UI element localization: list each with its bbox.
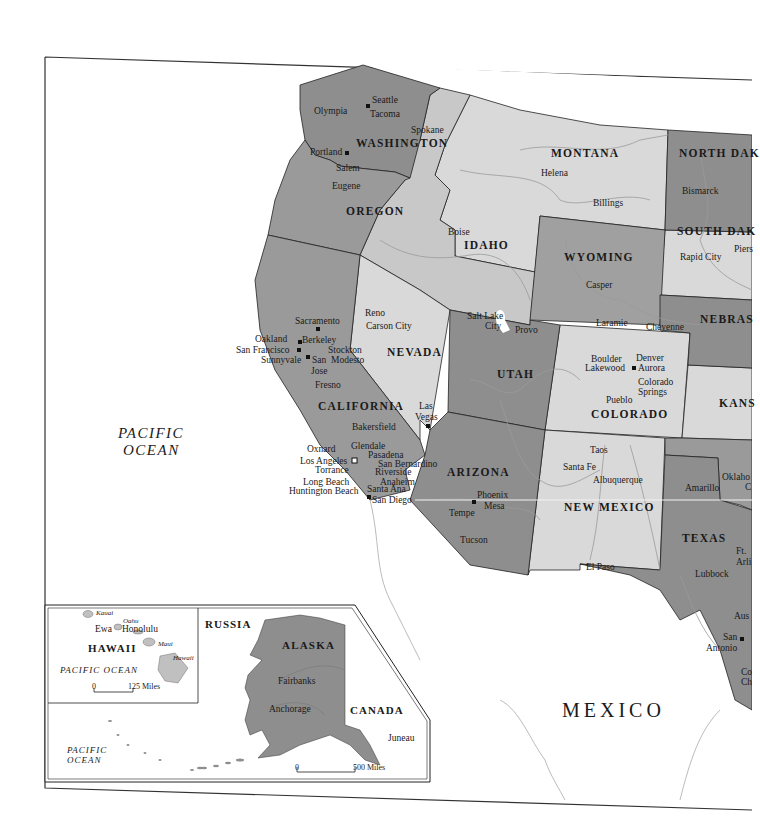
city-reno: Reno — [365, 309, 385, 319]
city-modesto: Modesto — [331, 356, 364, 366]
city-juneau: Juneau — [388, 734, 414, 744]
state-label-kansas: KANS — [719, 398, 756, 410]
city-cheyenne: Cheyenne — [646, 323, 684, 333]
ocean-label-alaska-2: OCEAN — [67, 756, 102, 765]
state-label-arizona: ARIZONA — [447, 467, 510, 479]
city-anchorage: Anchorage — [269, 705, 311, 715]
city-seattle: Seattle — [372, 96, 398, 106]
country-label-russia: RUSSIA — [205, 619, 251, 630]
city-oxnard: Oxnard — [307, 445, 336, 455]
city-lubbock: Lubbock — [695, 570, 729, 580]
city-torrance: Torrance — [315, 466, 349, 476]
city-fort-worth-2: Arli — [736, 558, 751, 568]
city-amarillo: Amarillo — [685, 484, 719, 494]
state-label-california: CALIFORNIA — [318, 401, 404, 413]
city-corpus-christi-2: Ch — [741, 678, 752, 688]
city-tempe: Tempe — [449, 509, 475, 519]
city-bismarck: Bismarck — [682, 187, 718, 197]
city-spokane: Spokane — [411, 126, 444, 136]
state-label-idaho: IDAHO — [464, 240, 509, 252]
city-mesa: Mesa — [484, 502, 505, 512]
state-label-oregon: OREGON — [346, 206, 404, 218]
city-san-jose-2: Jose — [311, 367, 327, 377]
country-label-mexico: MEXICO — [562, 700, 665, 720]
ocean-label-pacific-2: OCEAN — [123, 443, 180, 458]
state-south-dakota — [660, 230, 752, 300]
ocean-label-hawaii: PACIFIC OCEAN — [60, 666, 138, 675]
island-label-maui: Maui — [158, 641, 173, 648]
state-label-wyoming: WYOMING — [564, 252, 634, 264]
island-label-kauai: Kauai — [96, 610, 113, 617]
city-lakewood: Lakewood — [585, 364, 625, 374]
city-fort-worth-1: Ft. — [736, 547, 746, 557]
city-el-paso: El Paso — [586, 563, 615, 573]
island-maui — [143, 638, 155, 646]
city-oakland: Oakland — [255, 335, 287, 345]
city-taos: Taos — [590, 446, 608, 456]
ocean-label-pacific-1: PACIFIC — [118, 426, 184, 441]
state-wyoming — [530, 216, 665, 325]
island-label-hawaii: Hawaii — [173, 655, 194, 662]
city-huntington-beach: Huntington Beach — [289, 487, 358, 497]
state-label-nebraska: NEBRAS — [700, 314, 754, 326]
city-eugene: Eugene — [332, 182, 361, 192]
island-oahu — [114, 624, 122, 630]
city-santa-ana: Santa Ana — [367, 485, 406, 495]
alaska-scale-zero: 0 — [295, 764, 299, 772]
state-label-new-mexico: NEW MEXICO — [564, 502, 655, 514]
state-label-south-dakota: SOUTH DAK — [677, 226, 757, 238]
city-santa-fe: Santa Fe — [563, 463, 596, 473]
hawaii-scale-distance: 125 Miles — [128, 683, 160, 691]
state-label-north-dakota: NORTH DAK — [679, 148, 760, 160]
hawaii-scale-zero: 0 — [92, 683, 96, 691]
alaska-scale-distance: 500 Miles — [353, 764, 385, 772]
island-kauai — [83, 611, 93, 618]
state-label-colorado: COLORADO — [591, 409, 668, 421]
city-salt-lake-city-2: City — [485, 322, 501, 332]
city-san-diego: San Diego — [372, 496, 412, 506]
city-fairbanks: Fairbanks — [278, 677, 315, 687]
city-provo: Provo — [515, 326, 538, 336]
city-tucson: Tucson — [460, 536, 488, 546]
state-label-montana: MONTANA — [551, 148, 619, 160]
city-billings: Billings — [593, 199, 623, 209]
city-san-antonio-1: San — [723, 633, 737, 643]
city-albuquerque: Albuquerque — [593, 476, 643, 486]
city-casper: Casper — [586, 281, 612, 291]
city-sacramento: Sacramento — [295, 317, 340, 327]
city-helena: Helena — [541, 169, 568, 179]
city-sunnyvale: Sunnyvale — [261, 356, 301, 366]
city-honolulu: Honolulu — [122, 625, 158, 635]
city-bakersfield: Bakersfield — [352, 423, 396, 433]
city-aurora: Aurora — [638, 364, 665, 374]
city-austin: Aus — [734, 612, 749, 622]
city-las-vegas-2: Vegas — [415, 413, 438, 423]
city-colorado-springs-2: Springs — [638, 388, 667, 398]
city-pierre: Piers — [734, 245, 753, 255]
city-portland: Portland — [310, 148, 342, 158]
city-oklahoma-city: C — [745, 483, 751, 493]
city-boise: Boise — [448, 228, 470, 238]
city-san-antonio-2: Antonio — [706, 644, 737, 654]
state-label-utah: UTAH — [497, 369, 534, 381]
city-salem: Salem — [336, 164, 360, 174]
state-north-dakota — [665, 130, 752, 232]
city-las-vegas-1: Las — [419, 402, 433, 412]
city-olympia: Olympia — [314, 107, 347, 117]
city-ewa: Ewa — [95, 625, 112, 635]
city-pueblo: Pueblo — [606, 396, 632, 406]
state-label-texas: TEXAS — [682, 533, 726, 545]
state-label-washington: WASHINGTON — [356, 138, 448, 150]
state-label-hawaii: HAWAII — [88, 643, 137, 654]
city-laramie: Laramie — [596, 319, 628, 329]
city-fresno: Fresno — [315, 381, 341, 391]
city-rapid-city: Rapid City — [680, 253, 721, 263]
city-tacoma: Tacoma — [370, 110, 400, 120]
state-label-alaska: ALASKA — [282, 640, 335, 651]
ocean-label-alaska-1: PACIFIC — [67, 746, 107, 755]
state-label-nevada: NEVADA — [387, 347, 442, 359]
city-san-jose-1: San — [312, 356, 326, 366]
city-carson-city: Carson City — [366, 322, 412, 332]
country-label-canada: CANADA — [350, 705, 404, 716]
city-phoenix: Phoenix — [477, 491, 508, 501]
